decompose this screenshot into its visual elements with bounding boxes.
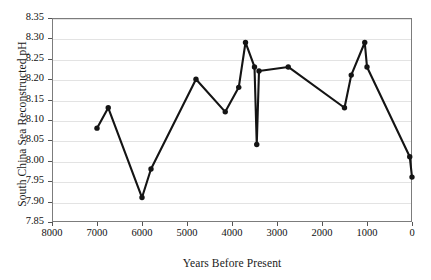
data-point bbox=[252, 64, 257, 69]
x-tick-label: 6000 bbox=[122, 227, 162, 238]
x-tick-mark bbox=[277, 222, 278, 226]
data-point bbox=[148, 166, 153, 171]
y-tick-label: 7.85 bbox=[8, 215, 44, 226]
x-tick-label: 2000 bbox=[302, 227, 342, 238]
x-tick-mark bbox=[97, 222, 98, 226]
data-point bbox=[236, 85, 241, 90]
x-tick-mark bbox=[187, 222, 188, 226]
y-tick-label: 7.90 bbox=[8, 195, 44, 206]
x-tick-mark bbox=[142, 222, 143, 226]
x-tick-label: 4000 bbox=[212, 227, 252, 238]
data-point bbox=[243, 40, 248, 45]
data-point bbox=[256, 68, 261, 73]
x-tick-mark bbox=[367, 222, 368, 226]
x-tick-mark bbox=[322, 222, 323, 226]
x-axis-title: Years Before Present bbox=[52, 257, 412, 269]
x-tick-label: 3000 bbox=[257, 227, 297, 238]
y-tick-label: 8.25 bbox=[8, 52, 44, 63]
data-point bbox=[349, 72, 354, 77]
data-point bbox=[342, 105, 347, 110]
x-tick-mark bbox=[52, 222, 53, 226]
data-point bbox=[254, 142, 259, 147]
data-point bbox=[139, 195, 144, 200]
x-tick-label: 7000 bbox=[77, 227, 117, 238]
data-point bbox=[286, 64, 291, 69]
x-tick-label: 0 bbox=[392, 227, 431, 238]
y-tick-label: 8.30 bbox=[8, 31, 44, 42]
y-tick-label: 8.20 bbox=[8, 72, 44, 83]
data-point bbox=[223, 109, 228, 114]
x-tick-label: 1000 bbox=[347, 227, 387, 238]
y-tick-label: 8.10 bbox=[8, 113, 44, 124]
data-point bbox=[364, 64, 369, 69]
y-tick-label: 8.35 bbox=[8, 11, 44, 22]
data-point bbox=[94, 125, 99, 130]
data-point bbox=[409, 174, 414, 179]
y-tick-label: 8.00 bbox=[8, 154, 44, 165]
x-tick-label: 5000 bbox=[167, 227, 207, 238]
data-point bbox=[407, 154, 412, 159]
x-tick-mark bbox=[412, 222, 413, 226]
y-tick-label: 7.95 bbox=[8, 174, 44, 185]
y-tick-label: 8.05 bbox=[8, 133, 44, 144]
data-point bbox=[193, 77, 198, 82]
data-point bbox=[362, 40, 367, 45]
y-tick-label: 8.15 bbox=[8, 93, 44, 104]
data-series-layer bbox=[52, 18, 412, 222]
chart-container: South China Sea Reconstructed pH 7.857.9… bbox=[0, 0, 431, 280]
x-tick-label: 8000 bbox=[32, 227, 72, 238]
data-point bbox=[106, 105, 111, 110]
x-tick-mark bbox=[232, 222, 233, 226]
